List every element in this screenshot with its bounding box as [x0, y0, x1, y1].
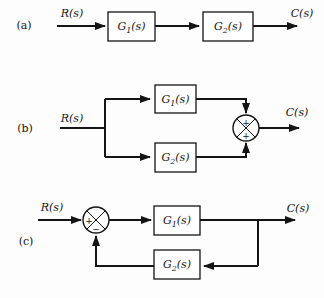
- figure-canvas: (a) R(s) G1(s) G2(s) C(s) (b) R(s) G1(s)…: [0, 0, 324, 298]
- diagram-b: (b) R(s) G1(s) G2(s) + + C(s): [17, 85, 308, 172]
- signal-arrow: [196, 99, 246, 113]
- block-base: G: [163, 258, 172, 271]
- diagram-c: (c) R(s) + − G1(s) C(s) G2(s): [19, 201, 310, 279]
- feedback-return-arrow: [96, 236, 154, 266]
- diagram-a: (a) R(s) G1(s) G2(s) C(s): [16, 7, 313, 41]
- output-label-c: C(s): [287, 202, 310, 215]
- block-g1-a-label: G1(s): [117, 20, 145, 35]
- block-base: G: [161, 151, 170, 164]
- block-base: G: [161, 93, 170, 106]
- block-arg: (s): [177, 214, 191, 227]
- block-arg: (s): [175, 151, 189, 164]
- block-g1-c-label: G1(s): [163, 214, 191, 229]
- block-arg: (s): [177, 258, 191, 271]
- output-label-a: C(s): [291, 7, 314, 20]
- block-arg: (s): [131, 20, 145, 33]
- sum-sign-top: +: [242, 118, 250, 128]
- input-label-b: R(s): [60, 112, 84, 125]
- output-label-b: C(s): [286, 106, 309, 119]
- block-g2-c-label: G2(s): [163, 258, 191, 273]
- block-g2-b-label: G2(s): [161, 151, 189, 166]
- part-label-b: (b): [17, 122, 33, 135]
- block-arg: (s): [175, 93, 189, 106]
- input-label-a: R(s): [60, 7, 84, 20]
- block-base: G: [214, 20, 223, 33]
- block-g1-b-label: G1(s): [161, 93, 189, 108]
- part-label-a: (a): [16, 19, 31, 32]
- block-g2-a-label: G2(s): [214, 20, 242, 35]
- part-label-c: (c): [19, 235, 34, 248]
- block-base: G: [117, 20, 126, 33]
- block-diagram-figure: (a) R(s) G1(s) G2(s) C(s) (b) R(s) G1(s)…: [0, 0, 324, 298]
- sum-sign-bottom: −: [92, 224, 100, 234]
- block-base: G: [163, 214, 172, 227]
- input-label-c: R(s): [40, 201, 64, 214]
- signal-arrow: [196, 143, 246, 157]
- block-arg: (s): [228, 20, 242, 33]
- sum-sign-bottom: +: [242, 131, 250, 141]
